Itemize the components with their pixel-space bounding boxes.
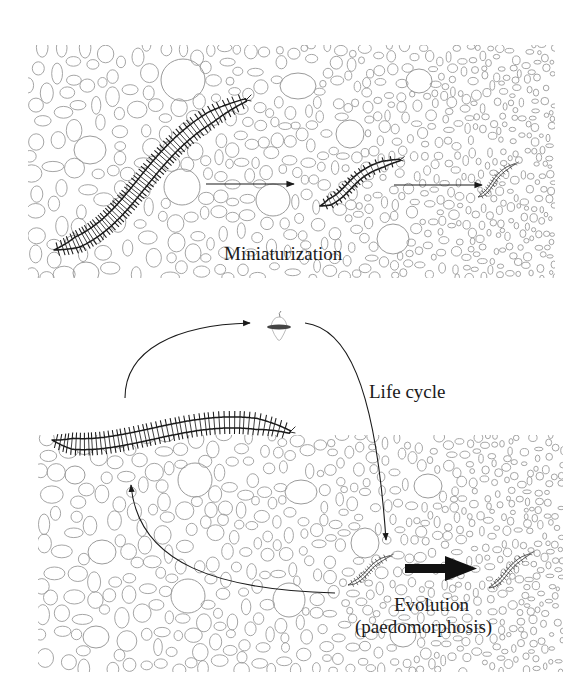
paedomorphosis-label: (paedomorphosis) <box>355 617 492 636</box>
planktonic-larva <box>267 311 291 340</box>
arrow-larva-to-juvenile <box>305 323 386 540</box>
figure-canvas <box>0 0 587 687</box>
evolution-label: Evolution <box>394 595 469 614</box>
miniaturization-label: Miniaturization <box>224 244 342 263</box>
arrow-evolution <box>405 556 477 581</box>
arrow-adult-to-larva <box>125 323 250 398</box>
life-cycle-label: Life cycle <box>369 382 445 401</box>
paedomorphic-worm <box>489 552 534 590</box>
sediment-grains-bottom <box>34 427 565 678</box>
